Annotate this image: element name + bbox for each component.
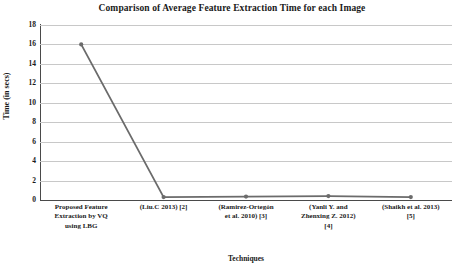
y-tick-label: 18: [10, 21, 36, 29]
x-tick-label-line: (Liu.C 2013) [2]: [118, 203, 208, 212]
series-line-chart: [40, 25, 452, 200]
x-tick-label: (Shaikh et al. 2013)[5]: [366, 203, 456, 222]
y-tick-label: 14: [10, 60, 36, 68]
x-tick-label-line: Extraction by VQ: [36, 212, 126, 221]
y-tick-label: 6: [10, 138, 36, 146]
plot-area: [40, 25, 452, 200]
y-tick-label: 8: [10, 118, 36, 126]
axis-baseline: [40, 200, 452, 201]
y-tick-label: 4: [10, 157, 36, 165]
x-tick-label-line: [4]: [283, 222, 373, 231]
x-tick-label-line: Zhenxing Z. 2012): [283, 212, 373, 221]
data-point-marker[interactable]: [244, 194, 248, 198]
data-point-marker[interactable]: [409, 195, 413, 199]
y-tick-label: 2: [10, 177, 36, 185]
x-tick-label-line: (Yanli Y. and: [283, 203, 373, 212]
x-axis-title: Techniques: [40, 254, 452, 263]
x-tick-label-line: using LBG: [36, 222, 126, 231]
x-tick-label-line: Proposed Feature: [36, 203, 126, 212]
x-axis-tick-labels: Proposed FeatureExtraction by VQusing LB…: [40, 203, 452, 249]
series-line: [81, 44, 411, 197]
y-tick-label: 0: [10, 196, 36, 204]
y-tick-label: 16: [10, 40, 36, 48]
x-tick-label: Proposed FeatureExtraction by VQusing LB…: [36, 203, 126, 231]
chart-container: Comparison of Average Feature Extraction…: [0, 0, 464, 276]
y-tick-label: 10: [10, 99, 36, 107]
data-point-marker[interactable]: [162, 195, 166, 199]
data-point-marker[interactable]: [326, 194, 330, 198]
data-point-marker[interactable]: [79, 42, 83, 46]
y-tick-label: 12: [10, 79, 36, 87]
x-tick-label-line: (Ramirez-Ortegón: [201, 203, 291, 212]
x-tick-label: (Ramirez-Ortegónet al. 2010) [3]: [201, 203, 291, 222]
x-tick-label-line: et al. 2010) [3]: [201, 212, 291, 221]
chart-title: Comparison of Average Feature Extraction…: [0, 3, 464, 13]
x-tick-label-line: (Shaikh et al. 2013): [366, 203, 456, 212]
x-tick-label: (Yanli Y. andZhenxing Z. 2012)[4]: [283, 203, 373, 231]
x-tick-label-line: [5]: [366, 212, 456, 221]
x-tick-label: (Liu.C 2013) [2]: [118, 203, 208, 212]
y-axis-tick-labels: 181614121086420: [8, 25, 36, 200]
